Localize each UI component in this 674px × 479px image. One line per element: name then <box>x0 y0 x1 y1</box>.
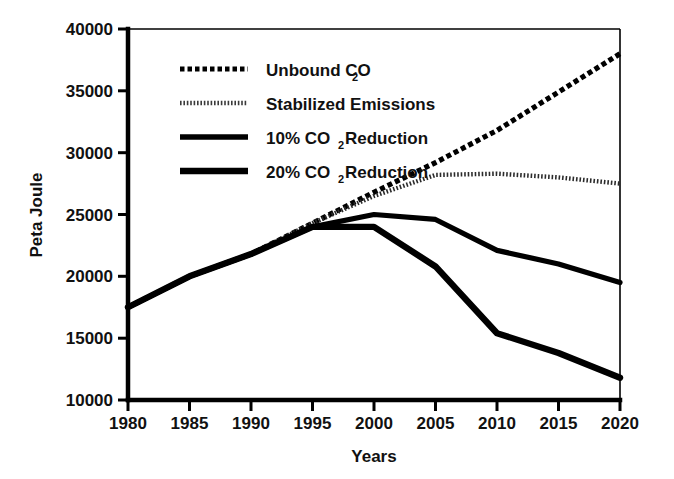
x-axis-title: Years <box>351 447 396 466</box>
y-tick-label-25000: 25000 <box>66 206 113 225</box>
legend-label-10-percent: 10% CO <box>266 129 330 148</box>
x-tick-label-1995: 1995 <box>294 414 332 433</box>
x-tick-label-1985: 1985 <box>171 414 209 433</box>
legend-label-10-percent-tail: Reduction <box>345 129 428 148</box>
x-tick-label-1980: 1980 <box>109 414 147 433</box>
y-tick-label-30000: 30000 <box>66 144 113 163</box>
y-tick-label-15000: 15000 <box>66 329 113 348</box>
y-axis-title: Peta Joule <box>27 172 46 257</box>
legend-label-20-percent: 20% CO <box>266 163 330 182</box>
x-axis-tick-labels: 1980 1985 1990 1995 2000 2005 2010 2015 … <box>109 414 639 433</box>
legend-label-10-percent-subscript: 2 <box>338 139 344 151</box>
legend-label-20-percent-tail: Reduction <box>345 163 428 182</box>
y-tick-label-35000: 35000 <box>66 82 113 101</box>
y-tick-label-10000: 10000 <box>66 391 113 410</box>
y-tick-label-40000: 40000 <box>66 20 113 39</box>
legend-label-20-percent-subscript: 2 <box>338 173 344 185</box>
x-tick-label-2020: 2020 <box>601 414 639 433</box>
legend-label-unbound-co2-subscript: 2 <box>352 71 358 83</box>
y-tick-label-20000: 20000 <box>66 267 113 286</box>
x-tick-label-2000: 2000 <box>355 414 393 433</box>
x-tick-label-2010: 2010 <box>478 414 516 433</box>
x-tick-label-1990: 1990 <box>232 414 270 433</box>
chart-figure: 10000 15000 20000 25000 30000 35000 4000… <box>0 0 674 479</box>
legend-label-stabilized-emissions: Stabilized Emissions <box>266 95 435 114</box>
x-tick-label-2015: 2015 <box>540 414 578 433</box>
x-tick-label-2005: 2005 <box>417 414 455 433</box>
line-chart-svg: 10000 15000 20000 25000 30000 35000 4000… <box>0 0 674 479</box>
